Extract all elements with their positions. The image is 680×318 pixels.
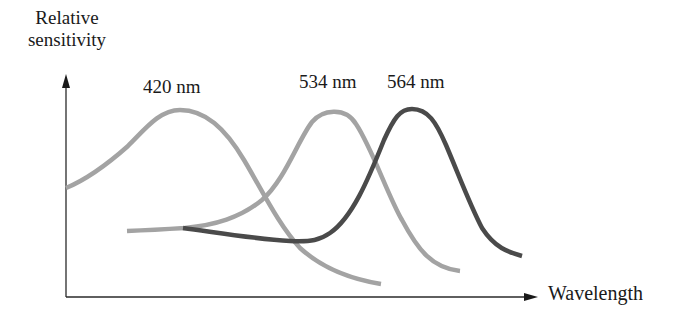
x-axis-arrow-icon	[524, 293, 538, 301]
peak-label-564nm: 564 nm	[387, 71, 445, 93]
x-axis-label: Wavelength	[548, 281, 643, 305]
y-axis-label: Relative sensitivity	[22, 7, 112, 51]
y-axis-label-line2: sensitivity	[22, 29, 112, 51]
curve-534nm	[127, 112, 460, 271]
y-axis-arrow-icon	[62, 74, 70, 88]
curve-564nm	[183, 109, 522, 256]
peak-label-420nm: 420 nm	[143, 76, 201, 98]
y-axis-label-line1: Relative	[22, 7, 112, 29]
curve-420nm	[66, 110, 381, 284]
peak-label-534nm: 534 nm	[299, 71, 357, 93]
